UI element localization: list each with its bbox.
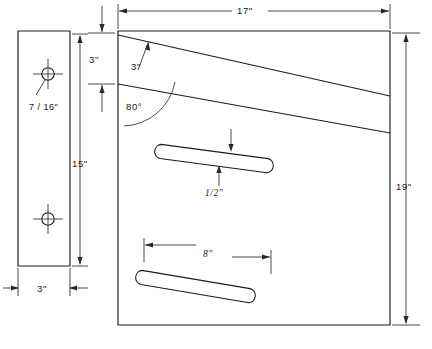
slot-length-arrow-right	[262, 254, 270, 259]
top-flange-dimension: 3"	[88, 6, 115, 112]
side-width-label: 3"	[37, 283, 47, 294]
hole-dia-label: 7 / 16"	[29, 102, 58, 112]
slot-length-label: 8"	[203, 249, 213, 259]
front-view-outline	[118, 31, 390, 325]
slot-length-arrow-left	[145, 242, 153, 247]
slot-width-dimension: 1/2"	[205, 129, 234, 198]
side-view-group: 7 / 16" 15"	[3, 31, 88, 296]
lower-slot-group	[136, 270, 256, 302]
fold-line-upper	[118, 35, 390, 96]
lower-slot-outline	[136, 270, 256, 302]
fold-line-lower	[118, 84, 390, 133]
top-flange-arrow-upper	[99, 24, 104, 32]
hole-dia-leader	[36, 80, 45, 95]
panel-height-dimension: 19"	[392, 33, 420, 325]
slot-width-label: 1/2"	[205, 188, 224, 198]
panel-width-dimension: 17"	[118, 4, 390, 29]
slot-width-arrow-upper	[228, 144, 233, 152]
top-flange-label: 3"	[89, 54, 99, 65]
panel-height-arrow-bottom	[403, 316, 408, 324]
upper-slot-group	[155, 144, 274, 172]
side-height-arrow-bottom	[77, 257, 82, 265]
lower-hole-group	[33, 204, 63, 234]
fold-angle-dimension: 80°	[124, 82, 175, 126]
upper-hole-group	[33, 59, 63, 89]
side-view-outline	[18, 31, 70, 266]
panel-width-arrow-right	[381, 8, 389, 13]
top-flange-arrow-lower	[99, 85, 104, 93]
panel-width-label: 17"	[237, 5, 253, 16]
side-height-dimension: 15"	[72, 34, 88, 266]
panel-height-label: 19"	[396, 181, 412, 192]
side-width-dimension: 3"	[3, 268, 88, 296]
fold-offset-dimension: 3"	[131, 42, 150, 73]
panel-width-arrow-left	[119, 8, 127, 13]
drawing-svg: 7 / 16" 15"	[0, 0, 432, 349]
fold-angle-label: 80°	[126, 101, 142, 112]
front-view-group: 17" 19" 3"	[88, 4, 420, 325]
fold-offset-label: 3"	[131, 61, 141, 72]
upper-slot-outline	[155, 144, 274, 172]
side-height-label: 15"	[72, 158, 88, 169]
side-height-arrow-top	[77, 35, 82, 43]
engineering-drawing-canvas: 7 / 16" 15"	[0, 0, 432, 349]
panel-height-arrow-top	[403, 34, 408, 42]
slot-length-dimension: 8"	[144, 238, 271, 274]
